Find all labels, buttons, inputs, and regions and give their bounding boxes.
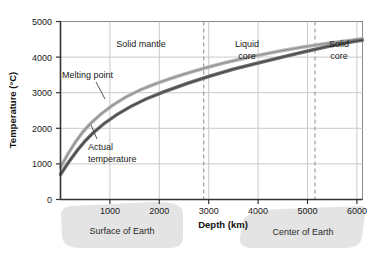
region-label-solid-core-line2: core <box>330 51 348 61</box>
xtick-label-5000: 5000 <box>297 206 317 216</box>
actual-temperature-annotation-line1: Actual <box>88 142 113 152</box>
xtick-label-6000: 6000 <box>347 206 367 216</box>
xtick-label-3000: 3000 <box>199 206 219 216</box>
xtick-label-4000: 4000 <box>248 206 268 216</box>
region-label-liquid-core-line1: Liquid <box>235 39 259 49</box>
plot-area: Solid mantle Liquid core Solid core Melt… <box>61 22 363 200</box>
actual-temperature-annotation-line2: temperature <box>88 154 137 164</box>
xtick-label-2000: 2000 <box>149 206 169 216</box>
chart-svg: Surface of Earth Center of Earth <box>0 0 379 261</box>
region-label-solid-core-line1: Solid <box>329 39 349 49</box>
geotherm-figure: Surface of Earth Center of Earth <box>0 0 379 261</box>
center-of-earth-label: Center of Earth <box>272 227 333 237</box>
x-axis-title: Depth (km) <box>198 219 248 230</box>
ytick-label-2000: 2000 <box>32 124 52 134</box>
region-label-liquid-core-line2: core <box>238 51 256 61</box>
ytick-label-0: 0 <box>47 195 52 205</box>
ytick-label-1000: 1000 <box>32 159 52 169</box>
y-axis-title: Temperature (°C) <box>7 72 18 148</box>
ytick-label-4000: 4000 <box>32 53 52 63</box>
xtick-label-1000: 1000 <box>100 206 120 216</box>
melting-point-annotation-label: Melting point <box>62 70 114 80</box>
surface-of-earth-label: Surface of Earth <box>89 226 154 236</box>
region-label-solid-mantle: Solid mantle <box>116 39 166 49</box>
ytick-label-3000: 3000 <box>32 88 52 98</box>
ytick-label-5000: 5000 <box>32 17 52 27</box>
